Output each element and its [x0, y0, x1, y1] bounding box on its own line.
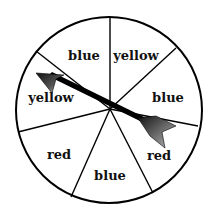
section-label: blue — [94, 168, 126, 183]
section-label: yellow — [112, 48, 159, 63]
section-label: blue — [152, 90, 184, 105]
section-label: yellow — [27, 90, 74, 105]
section-label: blue — [68, 48, 100, 63]
spinner-diagram: blue yellow blue yellow red blue red — [0, 0, 208, 213]
section-label: red — [47, 147, 71, 162]
section-label: red — [147, 148, 171, 163]
